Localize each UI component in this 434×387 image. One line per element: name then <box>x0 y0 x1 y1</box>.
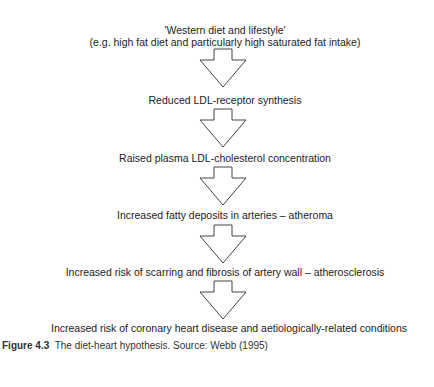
step-1-title: 'Western diet and lifestyle' <box>8 24 434 36</box>
step-1-subtitle: (e.g. high fat diet and particularly hig… <box>8 36 434 48</box>
caption-label: Figure 4.3 <box>2 340 49 351</box>
step-3: Raised plasma LDL-cholesterol concentrat… <box>8 152 434 164</box>
down-arrow-icon <box>198 48 248 88</box>
down-arrow-icon <box>198 280 248 320</box>
down-arrow-icon <box>198 166 248 206</box>
down-arrow-icon <box>198 224 248 264</box>
figure-caption: Figure 4.3 The diet-heart hypothesis. So… <box>2 340 268 351</box>
step-2: Reduced LDL-receptor synthesis <box>8 94 434 106</box>
step-4: Increased fatty deposits in arteries – a… <box>8 209 434 221</box>
step-6: Increased risk of coronary heart disease… <box>12 322 434 334</box>
down-arrow-icon <box>198 108 248 148</box>
caption-source: Source: Webb (1995) <box>173 340 268 351</box>
step-5: Increased risk of scarring and fibrosis … <box>8 266 434 278</box>
caption-text: The diet-heart hypothesis. <box>55 340 171 351</box>
